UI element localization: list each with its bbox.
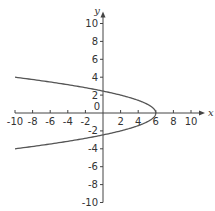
x-tick-label: -10: [7, 116, 23, 127]
x-tick-label: 10: [185, 116, 198, 127]
x-axis-arrow-icon: [199, 111, 205, 116]
y-axis-arrow-icon: [101, 12, 106, 18]
y-tick-label: 6: [92, 54, 98, 65]
chart: -10-8-6-4-2246810108642-2-4-6-8-100xy: [0, 0, 215, 211]
y-tick-label: 4: [92, 72, 98, 83]
y-tick-label: -6: [88, 161, 98, 172]
x-tick-label: -4: [63, 116, 73, 127]
y-tick-label: -10: [82, 197, 98, 208]
axes: [15, 12, 205, 203]
y-tick-label: 8: [92, 36, 98, 47]
y-tick-label: -8: [88, 179, 98, 190]
x-tick-label: 4: [135, 116, 141, 127]
y-tick-label: -2: [88, 125, 98, 136]
x-tick-label: -6: [45, 116, 55, 127]
labels: -10-8-6-4-2246810108642-2-4-6-8-100xy: [7, 5, 214, 209]
x-axis-label: x: [208, 107, 214, 118]
y-tick-label: 10: [85, 18, 98, 29]
y-tick-label: -4: [88, 143, 98, 154]
x-tick-label: 2: [117, 116, 123, 127]
x-tick-label: 8: [170, 116, 176, 127]
y-axis-label: y: [93, 5, 100, 16]
origin-label: 0: [94, 101, 100, 112]
x-tick-label: 6: [153, 116, 159, 127]
x-tick-label: -8: [28, 116, 38, 127]
y-tick-label: 2: [92, 90, 98, 101]
